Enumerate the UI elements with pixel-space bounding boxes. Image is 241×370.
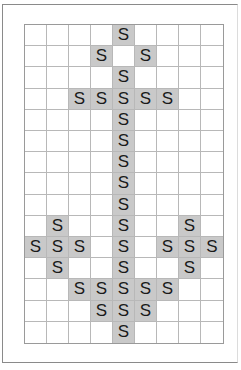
grid-cell-empty[interactable] bbox=[91, 322, 113, 343]
grid-cell-empty[interactable] bbox=[47, 89, 69, 110]
grid-cell-empty[interactable] bbox=[47, 25, 69, 46]
grid-cell-empty[interactable] bbox=[201, 173, 223, 194]
grid-cell-empty[interactable] bbox=[25, 131, 47, 152]
grid-cell-empty[interactable] bbox=[157, 46, 179, 67]
grid-cell-empty[interactable] bbox=[135, 216, 157, 237]
grid-cell-filled[interactable]: S bbox=[91, 301, 113, 322]
grid-cell-empty[interactable] bbox=[179, 279, 201, 300]
grid-cell-filled[interactable]: S bbox=[113, 216, 135, 237]
grid-cell-filled[interactable]: S bbox=[113, 173, 135, 194]
grid-cell-filled[interactable]: S bbox=[91, 46, 113, 67]
grid-cell-empty[interactable] bbox=[47, 67, 69, 88]
grid-cell-empty[interactable] bbox=[157, 216, 179, 237]
grid-cell-empty[interactable] bbox=[69, 46, 91, 67]
grid-cell-empty[interactable] bbox=[25, 46, 47, 67]
grid-cell-empty[interactable] bbox=[47, 322, 69, 343]
grid-cell-empty[interactable] bbox=[201, 46, 223, 67]
grid-cell-empty[interactable] bbox=[135, 258, 157, 279]
grid-cell-empty[interactable] bbox=[25, 258, 47, 279]
grid-cell-empty[interactable] bbox=[201, 258, 223, 279]
grid-cell-empty[interactable] bbox=[179, 173, 201, 194]
grid-cell-filled[interactable]: S bbox=[113, 25, 135, 46]
grid-cell-filled[interactable]: S bbox=[113, 237, 135, 258]
grid-cell-empty[interactable] bbox=[25, 216, 47, 237]
grid-cell-empty[interactable] bbox=[201, 25, 223, 46]
grid-cell-empty[interactable] bbox=[91, 110, 113, 131]
grid-cell-empty[interactable] bbox=[201, 301, 223, 322]
grid-cell-filled[interactable]: S bbox=[113, 301, 135, 322]
grid-cell-empty[interactable] bbox=[201, 131, 223, 152]
grid-cell-empty[interactable] bbox=[201, 322, 223, 343]
grid-cell-empty[interactable] bbox=[69, 173, 91, 194]
grid-cell-empty[interactable] bbox=[201, 89, 223, 110]
grid-cell-empty[interactable] bbox=[179, 110, 201, 131]
grid-cell-empty[interactable] bbox=[135, 67, 157, 88]
grid-cell-empty[interactable] bbox=[25, 301, 47, 322]
grid-cell-filled[interactable]: S bbox=[157, 89, 179, 110]
grid-cell-empty[interactable] bbox=[157, 25, 179, 46]
grid-cell-empty[interactable] bbox=[69, 258, 91, 279]
grid-cell-empty[interactable] bbox=[69, 25, 91, 46]
grid-cell-filled[interactable]: S bbox=[179, 237, 201, 258]
grid-cell-filled[interactable]: S bbox=[47, 258, 69, 279]
grid-cell-empty[interactable] bbox=[69, 216, 91, 237]
grid-cell-empty[interactable] bbox=[47, 46, 69, 67]
grid-cell-empty[interactable] bbox=[69, 152, 91, 173]
grid-cell-empty[interactable] bbox=[157, 322, 179, 343]
grid-cell-empty[interactable] bbox=[179, 25, 201, 46]
grid-cell-empty[interactable] bbox=[135, 152, 157, 173]
grid-cell-empty[interactable] bbox=[157, 301, 179, 322]
grid-cell-empty[interactable] bbox=[179, 89, 201, 110]
grid-cell-filled[interactable]: S bbox=[135, 89, 157, 110]
grid-cell-filled[interactable]: S bbox=[157, 279, 179, 300]
grid-cell-empty[interactable] bbox=[69, 67, 91, 88]
grid-cell-filled[interactable]: S bbox=[69, 237, 91, 258]
grid-cell-empty[interactable] bbox=[91, 258, 113, 279]
grid-cell-filled[interactable]: S bbox=[113, 195, 135, 216]
grid-cell-empty[interactable] bbox=[179, 46, 201, 67]
grid-cell-empty[interactable] bbox=[135, 110, 157, 131]
grid-cell-empty[interactable] bbox=[201, 279, 223, 300]
grid-cell-empty[interactable] bbox=[157, 173, 179, 194]
grid-cell-empty[interactable] bbox=[91, 173, 113, 194]
grid-cell-empty[interactable] bbox=[91, 131, 113, 152]
grid-cell-empty[interactable] bbox=[157, 67, 179, 88]
grid-cell-empty[interactable] bbox=[25, 173, 47, 194]
grid-cell-empty[interactable] bbox=[47, 110, 69, 131]
grid-cell-empty[interactable] bbox=[135, 195, 157, 216]
grid-cell-empty[interactable] bbox=[69, 301, 91, 322]
grid-cell-empty[interactable] bbox=[157, 258, 179, 279]
grid-cell-filled[interactable]: S bbox=[135, 279, 157, 300]
grid-cell-empty[interactable] bbox=[113, 46, 135, 67]
grid-cell-empty[interactable] bbox=[179, 152, 201, 173]
grid-cell-filled[interactable]: S bbox=[47, 237, 69, 258]
grid-cell-empty[interactable] bbox=[201, 67, 223, 88]
grid-cell-filled[interactable]: S bbox=[113, 322, 135, 343]
grid-cell-empty[interactable] bbox=[25, 152, 47, 173]
grid-cell-filled[interactable]: S bbox=[47, 216, 69, 237]
grid-cell-empty[interactable] bbox=[91, 152, 113, 173]
grid-cell-filled[interactable]: S bbox=[135, 301, 157, 322]
grid-cell-empty[interactable] bbox=[157, 195, 179, 216]
grid-cell-filled[interactable]: S bbox=[91, 89, 113, 110]
grid-cell-empty[interactable] bbox=[25, 110, 47, 131]
grid-cell-empty[interactable] bbox=[47, 173, 69, 194]
grid-cell-empty[interactable] bbox=[91, 67, 113, 88]
grid-cell-empty[interactable] bbox=[201, 195, 223, 216]
grid-cell-filled[interactable]: S bbox=[69, 279, 91, 300]
grid-cell-empty[interactable] bbox=[135, 131, 157, 152]
grid-cell-empty[interactable] bbox=[135, 173, 157, 194]
grid-cell-empty[interactable] bbox=[91, 195, 113, 216]
grid-cell-empty[interactable] bbox=[69, 110, 91, 131]
grid-cell-filled[interactable]: S bbox=[201, 237, 223, 258]
grid-cell-empty[interactable] bbox=[179, 131, 201, 152]
grid-cell-empty[interactable] bbox=[201, 152, 223, 173]
grid-cell-empty[interactable] bbox=[157, 131, 179, 152]
grid-cell-empty[interactable] bbox=[25, 322, 47, 343]
grid-cell-empty[interactable] bbox=[69, 131, 91, 152]
grid-cell-filled[interactable]: S bbox=[25, 237, 47, 258]
grid-cell-filled[interactable]: S bbox=[113, 152, 135, 173]
grid-cell-empty[interactable] bbox=[47, 301, 69, 322]
grid-cell-empty[interactable] bbox=[69, 195, 91, 216]
grid-cell-empty[interactable] bbox=[91, 25, 113, 46]
